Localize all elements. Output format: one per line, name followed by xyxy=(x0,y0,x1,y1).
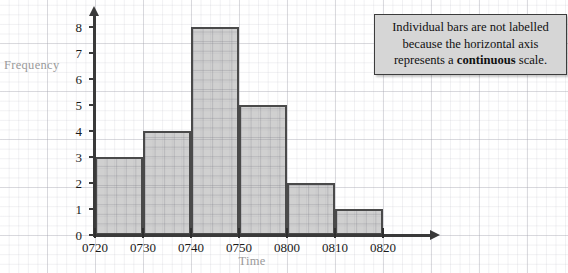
y-tick xyxy=(89,182,96,184)
histogram-bar xyxy=(95,157,143,235)
y-axis-line xyxy=(93,14,96,237)
x-axis-title: Time xyxy=(212,254,292,269)
histogram-bar xyxy=(191,27,239,235)
x-tick xyxy=(334,228,336,238)
histogram-bar xyxy=(287,183,335,235)
x-tick-label: 0750 xyxy=(216,241,262,254)
y-tick xyxy=(89,52,96,54)
x-tick-label: 0740 xyxy=(168,241,214,254)
y-tick xyxy=(89,26,96,28)
y-tick xyxy=(89,130,96,132)
x-tick-label: 0730 xyxy=(120,241,166,254)
callout-line-2: because the horizontal axis xyxy=(402,37,538,51)
y-tick xyxy=(89,156,96,158)
callout-note: Individual bars are not labelled because… xyxy=(374,14,567,75)
y-tick xyxy=(89,104,96,106)
y-tick-label: 3 xyxy=(66,151,82,164)
x-tick xyxy=(382,228,384,238)
histogram-bar xyxy=(335,209,383,235)
callout-line-1: Individual bars are not labelled xyxy=(392,20,549,34)
x-tick xyxy=(286,228,288,238)
y-tick xyxy=(89,78,96,80)
callout-line-3-after: scale. xyxy=(516,53,547,67)
y-axis-title: Frequency xyxy=(4,58,76,73)
y-tick-label: 5 xyxy=(66,99,82,112)
histogram-figure: 0 1 2 3 4 5 6 7 8 0720 0730 0740 0750 08… xyxy=(0,0,568,273)
y-tick-label: 1 xyxy=(66,203,82,216)
x-tick-label: 0820 xyxy=(360,241,406,254)
histogram-bar xyxy=(239,105,287,235)
y-axis-arrow-icon xyxy=(89,6,99,16)
callout-emphasis: continuous xyxy=(457,53,516,67)
y-tick-label: 8 xyxy=(66,21,82,34)
x-tick xyxy=(238,228,240,238)
callout-line-3-before: represents a xyxy=(394,53,457,67)
y-tick xyxy=(89,208,96,210)
x-tick xyxy=(94,228,96,238)
y-tick-label: 4 xyxy=(66,125,82,138)
x-tick xyxy=(142,228,144,238)
y-tick-label: 6 xyxy=(66,73,82,86)
histogram-bar xyxy=(143,131,191,235)
y-tick-label: 2 xyxy=(66,177,82,190)
x-tick-label: 0810 xyxy=(312,241,358,254)
x-axis-arrow-icon xyxy=(430,230,440,240)
x-tick-label: 0800 xyxy=(264,241,310,254)
x-tick xyxy=(190,228,192,238)
x-tick-label: 0720 xyxy=(72,241,118,254)
